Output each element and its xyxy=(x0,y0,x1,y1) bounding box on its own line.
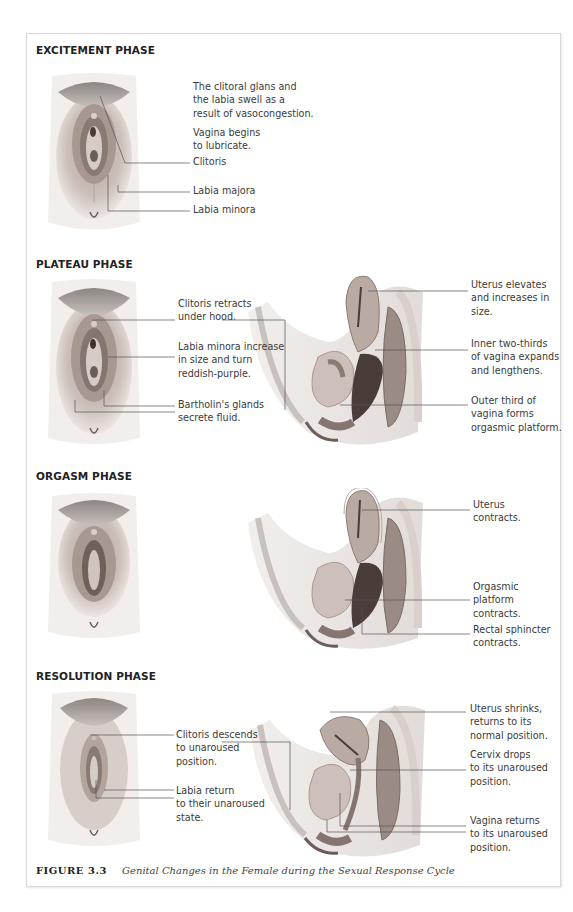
label-excitement-clitoris: Clitoris xyxy=(193,155,226,168)
label-orgasm-platform: Orgasmic platform contracts. xyxy=(473,580,521,620)
label-plateau-uterus: Uterus elevates and increases in size. xyxy=(471,278,549,318)
label-excitement-lubricate: Vagina begins to lubricate. xyxy=(193,126,260,153)
phase-title-orgasm: ORGASM PHASE xyxy=(36,470,132,482)
label-plateau-labia-minora: Labia minora increase in size and turn r… xyxy=(178,340,284,380)
label-orgasm-rectal: Rectal sphincter contracts. xyxy=(473,623,551,650)
label-resolution-clitoris: Clitoris descends to unaroused position. xyxy=(176,728,258,768)
phase-title-plateau: PLATEAU PHASE xyxy=(36,258,133,270)
figure-caption-text: Genital Changes in the Female during the… xyxy=(122,865,455,876)
frontal-illustration-excitement xyxy=(44,72,144,232)
label-plateau-clitoris-retracts: Clitoris retracts under hood. xyxy=(178,297,252,324)
label-plateau-outer-vagina: Outer third of vagina forms orgasmic pla… xyxy=(471,394,562,434)
label-resolution-cervix: Cervix drops to its unaroused position. xyxy=(470,748,548,788)
label-excitement-labia-majora: Labia majora xyxy=(193,184,256,197)
figure-caption: FIGURE 3.3 Genital Changes in the Female… xyxy=(36,865,455,876)
label-resolution-labia: Labia return to their unaroused state. xyxy=(176,784,265,824)
frontal-illustration-plateau xyxy=(44,278,144,448)
label-resolution-vagina: Vagina returns to its unaroused position… xyxy=(470,814,548,854)
figure-number: FIGURE 3.3 xyxy=(36,865,107,876)
label-plateau-bartholins: Bartholin's glands secrete fluid. xyxy=(178,398,264,425)
label-orgasm-uterus: Uterus contracts. xyxy=(473,498,521,525)
label-excitement-swell: The clitoral glans and the labia swell a… xyxy=(193,80,314,120)
label-resolution-uterus: Uterus shrinks, returns to its normal po… xyxy=(470,702,548,742)
label-excitement-labia-minora: Labia minora xyxy=(193,203,256,216)
sagittal-illustration-orgasm xyxy=(248,488,428,653)
frontal-illustration-orgasm xyxy=(44,492,144,642)
phase-title-resolution: RESOLUTION PHASE xyxy=(36,670,156,682)
sagittal-illustration-resolution xyxy=(250,700,430,865)
frontal-illustration-resolution xyxy=(44,690,144,850)
phase-title-excitement: EXCITEMENT PHASE xyxy=(36,44,155,56)
label-plateau-inner-vagina: Inner two-thirds of vagina expands and l… xyxy=(471,337,559,377)
